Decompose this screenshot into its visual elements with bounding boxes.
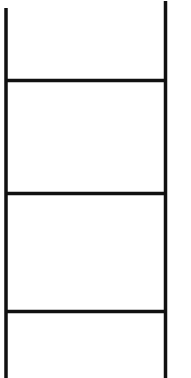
ladder-icon	[0, 0, 191, 378]
ladder-illustration	[0, 0, 191, 378]
